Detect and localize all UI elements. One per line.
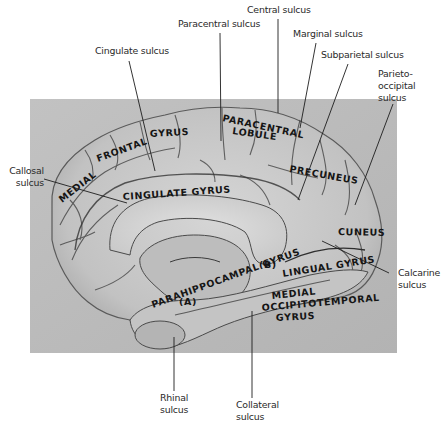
callout-calcarine-sulcus: Calcarine sulcus	[398, 267, 440, 291]
marker-a: (A)	[179, 296, 197, 307]
callout-central-sulcus: Central sulcus	[247, 4, 311, 16]
callout-line: sulcus	[236, 411, 279, 423]
callout-callosal-sulcus: Callosal sulcus	[6, 165, 44, 189]
brain-medial-surface-figure: MEDIAL FRONTAL GYRUS PARACENTRAL LOBULE …	[0, 0, 445, 424]
callout-line: Collateral	[236, 399, 279, 411]
callout-subparietal-sulcus: Subparietal sulcus	[321, 49, 404, 61]
callout-line: occipital	[378, 80, 415, 92]
callout-line: Calcarine	[398, 267, 440, 279]
label-medial-ot-3: GYRUS	[276, 310, 316, 323]
callout-line: Rhinal	[160, 392, 188, 404]
callout-marginal-sulcus: Marginal sulcus	[293, 28, 363, 40]
callout-line: sulcus	[378, 92, 415, 104]
callout-parieto-occipital-sulcus: Parieto- occipital sulcus	[378, 68, 415, 104]
callout-collateral-sulcus: Collateral sulcus	[236, 399, 279, 423]
callout-rhinal-sulcus: Rhinal sulcus	[160, 392, 188, 416]
callout-paracentral-sulcus: Paracentral sulcus	[178, 18, 260, 30]
callout-cingulate-sulcus: Cingulate sulcus	[95, 45, 169, 57]
uncus	[135, 321, 185, 349]
marker-b: (B)	[259, 259, 277, 270]
callout-line: sulcus	[160, 404, 188, 416]
callout-line: sulcus	[6, 177, 44, 189]
callout-line: Callosal	[6, 165, 44, 177]
label-cuneus: CUNEUS	[338, 226, 385, 238]
callout-line: Parieto-	[378, 68, 415, 80]
callout-line: sulcus	[398, 279, 440, 291]
label-gyrus-frontal: GYRUS	[150, 126, 190, 139]
